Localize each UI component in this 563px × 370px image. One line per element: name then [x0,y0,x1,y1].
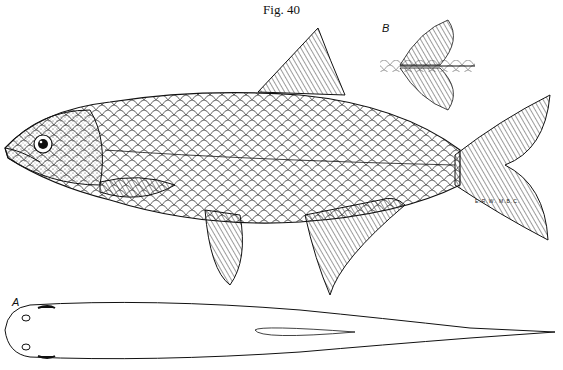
label-a: A [12,296,19,308]
pelvic-fin [205,210,242,285]
label-b: B [382,22,389,34]
artist-initials: E.R.W. M.B.C. [475,198,520,204]
anal-fin [305,198,405,295]
dorsal-fin [258,28,345,95]
caudal-fin [455,95,550,240]
fish-illustration [0,0,563,370]
dorsal-view-a [5,302,555,358]
caudal-detail-b [380,20,475,110]
